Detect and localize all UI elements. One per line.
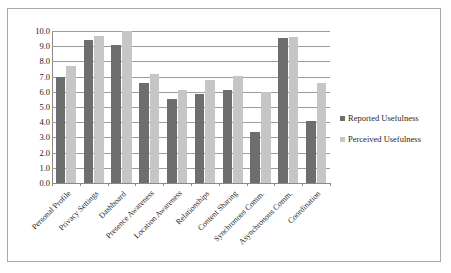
x-axis-tick xyxy=(52,183,53,186)
y-axis-tick-label: 1.0 xyxy=(22,164,50,173)
bar-reported xyxy=(223,90,233,183)
bar-group xyxy=(167,31,187,183)
x-axis-tick xyxy=(108,183,109,186)
bar-reported xyxy=(111,45,121,183)
y-axis-tick-label: 8.0 xyxy=(22,57,50,66)
x-axis-tick xyxy=(247,183,248,186)
x-axis-category-label: Location Awareness xyxy=(132,189,184,241)
x-axis-category-label: Synchronous Comm. xyxy=(212,189,266,243)
bar-perceived xyxy=(233,76,243,183)
bar-group xyxy=(250,31,270,183)
y-axis-tick-label: 0.0 xyxy=(22,179,50,188)
bar-group xyxy=(56,31,76,183)
bar-reported xyxy=(139,83,149,183)
x-axis-category-label: Privacy Settings xyxy=(57,189,100,232)
legend-label: Reported Usefulness xyxy=(348,114,419,123)
bar-perceived xyxy=(205,80,215,183)
x-axis-category-label: Personal Profile xyxy=(30,189,73,232)
x-axis-tick xyxy=(219,183,220,186)
legend-item: Reported Usefulness xyxy=(340,114,440,123)
bar-perceived xyxy=(150,74,160,183)
x-axis-category-label: Asynchronous Comm. xyxy=(237,189,294,246)
legend-item: Perceived Usefulness xyxy=(340,135,440,144)
y-axis-tick-label: 3.0 xyxy=(22,133,50,142)
bar-perceived xyxy=(261,92,271,183)
bar-perceived xyxy=(178,90,188,183)
x-axis-category-label: Dashboard xyxy=(97,189,128,220)
x-axis-tick xyxy=(80,183,81,186)
x-axis-tick xyxy=(274,183,275,186)
bar-group xyxy=(111,31,131,183)
bar-group xyxy=(223,31,243,183)
y-axis-tick-label: 2.0 xyxy=(22,148,50,157)
bar-perceived xyxy=(317,83,327,183)
bar-group xyxy=(306,31,326,183)
square-marker-light xyxy=(340,137,345,142)
x-axis-tick xyxy=(163,183,164,186)
y-axis-tick-label: 9.0 xyxy=(22,42,50,51)
square-marker-dark xyxy=(340,116,345,121)
x-axis-tick xyxy=(191,183,192,186)
bar-group xyxy=(195,31,215,183)
bar-reported xyxy=(250,132,260,183)
x-axis-tick xyxy=(302,183,303,186)
y-axis-tick-label: 6.0 xyxy=(22,88,50,97)
bar-group xyxy=(139,31,159,183)
x-axis-category-label: Relationships xyxy=(174,189,211,226)
plot-area xyxy=(52,31,330,183)
chart-legend: Reported UsefulnessPerceived Usefulness xyxy=(340,114,440,156)
bar-group xyxy=(84,31,104,183)
bar-reported xyxy=(306,121,316,183)
y-axis-tick-label: 4.0 xyxy=(22,118,50,127)
chart-frame: 0.01.02.03.04.05.06.07.08.09.010.0 Perso… xyxy=(7,8,441,262)
y-axis-tick-labels: 0.01.02.03.04.05.06.07.08.09.010.0 xyxy=(22,31,50,183)
bars-layer xyxy=(52,31,330,183)
bar-reported xyxy=(56,77,66,183)
x-axis-category-label: Presence Awareness xyxy=(104,189,156,241)
y-axis-tick-label: 7.0 xyxy=(22,72,50,81)
x-axis-tick xyxy=(135,183,136,186)
legend-label: Perceived Usefulness xyxy=(348,135,421,144)
bar-perceived xyxy=(66,66,76,183)
y-axis-tick-label: 5.0 xyxy=(22,103,50,112)
x-axis-category-label: Content Sharing xyxy=(196,189,239,232)
x-axis-tick xyxy=(330,183,331,186)
bar-reported xyxy=(84,40,94,183)
bar-perceived xyxy=(289,37,299,183)
bar-group xyxy=(278,31,298,183)
bar-reported xyxy=(167,99,177,183)
bar-reported xyxy=(195,94,205,183)
bar-perceived xyxy=(94,36,104,183)
bar-perceived xyxy=(122,31,132,183)
x-axis-category-label: Coordination xyxy=(286,189,322,225)
y-axis-tick-label: 10.0 xyxy=(22,27,50,36)
bar-reported xyxy=(278,38,288,183)
